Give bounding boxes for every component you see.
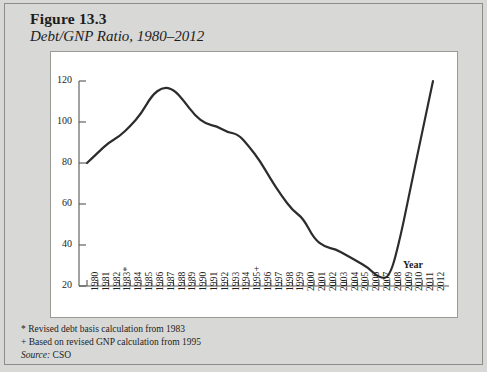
source-value-text: CSO	[53, 350, 71, 360]
x-tick-label: 2008	[393, 272, 403, 291]
y-tick-label: 60	[48, 197, 72, 208]
y-tick-label: 80	[48, 156, 72, 167]
y-tick-label: 20	[48, 279, 72, 290]
x-tick-label: 1986	[155, 272, 165, 291]
x-tick-label: 2001	[317, 272, 327, 291]
figure-subtitle: Debt/GNP Ratio, 1980–2012	[30, 28, 204, 45]
footnote-plus: + Based on revised GNP calculation from …	[21, 337, 201, 347]
x-tick-label: 1990	[198, 272, 208, 291]
x-tick-label: 2011	[425, 272, 435, 291]
x-tick-label: 1994	[241, 272, 251, 291]
chart-series-layer	[87, 81, 433, 278]
x-tick-label: 1996	[263, 272, 273, 291]
source-note: Source: CSO	[21, 350, 71, 360]
x-tick-label: 1999	[295, 272, 305, 291]
x-tick-label: 1984	[133, 272, 143, 291]
x-tick-label: 1982	[112, 272, 122, 291]
figure-frame: Figure 13.3 Debt/GNP Ratio, 1980–2012 De…	[4, 3, 483, 365]
x-tick-label: 2005	[360, 272, 370, 291]
x-tick-label: 1988	[177, 272, 187, 291]
x-tick-label: 1991	[209, 272, 219, 291]
x-tick-label: 2010	[414, 272, 424, 291]
x-tick-label: 1985	[144, 272, 154, 291]
source-label: Source:	[21, 350, 50, 360]
x-tick-label: 1983*	[122, 267, 132, 291]
x-tick-label: 2004	[350, 272, 360, 291]
x-tick-label: 1981	[101, 272, 111, 291]
x-tick-label: 1987	[166, 272, 176, 291]
figure-container: Figure 13.3 Debt/GNP Ratio, 1980–2012 De…	[0, 0, 487, 372]
x-tick-label: 2007	[382, 272, 392, 291]
x-tick-label: 1998	[285, 272, 295, 291]
footnote-asterisk: * Revised debt basis calculation from 19…	[21, 324, 185, 334]
x-tick-label: 1993	[231, 272, 241, 291]
x-tick-label: 1997	[274, 272, 284, 291]
x-tick-label: 1995+	[252, 266, 262, 291]
x-tick-label: 1989	[187, 272, 197, 291]
y-tick-label: 100	[48, 115, 72, 126]
y-tick-label: 40	[48, 238, 72, 249]
chart-axes	[79, 81, 449, 286]
x-tick-label: 2002	[328, 272, 338, 291]
x-axis-title: Year	[403, 259, 423, 270]
x-tick-label: 2000	[306, 272, 316, 291]
x-tick-label: 2003	[339, 272, 349, 291]
x-tick-label: 1992	[220, 272, 230, 291]
x-tick-label: 2009	[404, 272, 414, 291]
x-tick-label: 2006	[371, 272, 381, 291]
figure-number-label: Figure 13.3	[30, 10, 107, 28]
x-tick-label: 2012	[436, 272, 446, 291]
x-tick-label: 1980	[90, 272, 100, 291]
y-tick-label: 120	[48, 74, 72, 85]
